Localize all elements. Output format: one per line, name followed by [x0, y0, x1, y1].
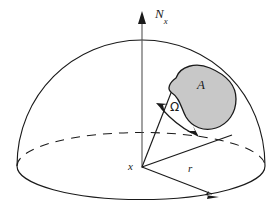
patch-area-label: A: [197, 78, 205, 91]
radius-line: [142, 167, 212, 194]
cone-edge-lower: [142, 135, 232, 167]
surface-patch-A: [169, 65, 236, 129]
origin-point-label: x: [128, 161, 133, 172]
radius-label: r: [188, 163, 192, 174]
base-ellipse-back: [17, 132, 265, 166]
diagram-canvas: [0, 0, 279, 209]
arrow-up-icon: [138, 11, 146, 24]
solid-angle-hemisphere-diagram: Nx A Ω x r: [0, 0, 279, 209]
base-ellipse-front: [17, 166, 265, 200]
normal-axis-label: Nx: [155, 7, 168, 23]
solid-angle-label: Ω: [170, 101, 179, 113]
